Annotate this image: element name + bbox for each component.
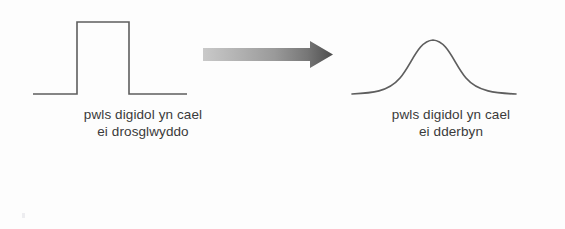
- caption-transmitted-line1: pwls digidol yn cael: [9, 106, 277, 123]
- square-pulse-waveform: [33, 22, 187, 94]
- scan-artifact-speck: [22, 213, 25, 218]
- caption-transmitted-pulse: pwls digidol yn cael ei drosglwyddo: [9, 106, 277, 140]
- bell-curve-waveform: [352, 40, 516, 94]
- caption-transmitted-line2: ei drosglwyddo: [9, 123, 277, 140]
- digital-pulse-diagram: pwls digidol yn cael ei drosglwyddo pwls…: [0, 0, 565, 229]
- caption-received-line2: ei dderbyn: [320, 123, 565, 140]
- right-arrow-icon: [203, 41, 333, 68]
- caption-received-line1: pwls digidol yn cael: [320, 106, 565, 123]
- caption-received-pulse: pwls digidol yn cael ei dderbyn: [320, 106, 565, 140]
